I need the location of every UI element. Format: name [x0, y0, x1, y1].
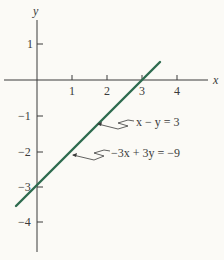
y-ticks — [37, 44, 43, 222]
x-tick-label: 4 — [174, 84, 180, 98]
y-tick-label: −1 — [18, 109, 31, 123]
y-axis-label: y — [32, 4, 39, 18]
x-tick-label: 3 — [139, 84, 145, 98]
x-tick-label: 1 — [69, 84, 75, 98]
x-ticks — [72, 75, 177, 80]
x-axis-label: x — [212, 73, 219, 87]
y-tick-label: −4 — [18, 215, 31, 229]
line-series — [16, 62, 160, 206]
y-tick-label: −2 — [18, 145, 31, 159]
annotation-leader-1 — [97, 120, 134, 129]
x-tick-label: 2 — [104, 84, 110, 98]
equation-label-2: −3x + 3y = −9 — [111, 146, 180, 160]
equation-label-1: x − y = 3 — [136, 115, 180, 129]
y-tick-label: 1 — [27, 37, 33, 51]
coordinate-plane: x y 1 2 3 4 1 −1 −2 −3 −4 x − y = 3 −3x … — [0, 0, 224, 260]
annotation-leader-2 — [72, 150, 110, 160]
